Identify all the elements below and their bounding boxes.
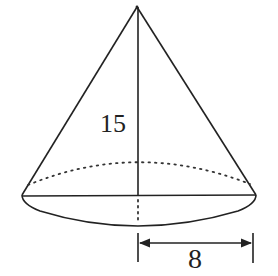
radius-label: 8 bbox=[188, 243, 202, 274]
height-label: 15 bbox=[100, 109, 126, 138]
base-front-arc bbox=[22, 195, 256, 226]
base-diameter-line bbox=[22, 195, 256, 196]
apex-point bbox=[136, 6, 139, 9]
base-back-arc-dotted bbox=[28, 162, 250, 185]
cone-diagram: 15 8 bbox=[0, 0, 278, 276]
cone-left-slant bbox=[22, 7, 137, 195]
cone-right-slant bbox=[137, 7, 256, 195]
